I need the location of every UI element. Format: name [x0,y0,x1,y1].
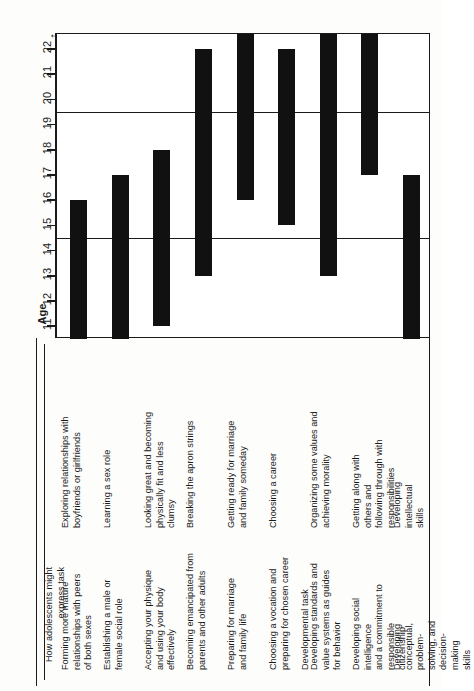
table-cell-task: Developing conceptual, problem-solving, … [392,620,473,670]
axis-tick-label: 19 [41,110,53,136]
bar [320,34,337,276]
axis-label-age: Age [36,303,48,324]
table-cell-expression: Looking great and becoming physically fi… [143,412,178,528]
table-cell-task: Establishing a male or female social rol… [102,579,125,670]
table-cell-task: Choosing a vocation and preparing for ch… [268,557,291,670]
table-cell-expression: Organizing some values and achieving mor… [309,411,332,528]
axis-tick-label: 14 [41,236,53,262]
table-cell-expression: Exploring relationships with boyfriends … [60,416,83,528]
age-axis: ↑ 111213141516171819202122 Age [44,25,56,345]
table-cell-expression: Developing intellectual skills [392,478,427,528]
axis-tick-label: 17 [41,160,53,186]
table-cell-expression: Choosing a career [268,453,280,528]
table-cell-task: Developing standards and value systems a… [309,563,344,670]
bar [70,200,87,339]
table-cell-expression: Getting along with others and following … [351,437,397,528]
axis-tick-label: 18 [41,135,53,161]
bar [153,150,170,326]
bar [237,34,254,200]
table-cell-expression: Learning a sex role [102,450,114,528]
table-cell-expression: Breaking the apron strings [185,421,197,528]
table-header-divider [44,344,45,680]
bar [278,49,295,225]
table-cell-task: Becoming emancipated from parents and ot… [185,553,208,670]
axis-tick-label: 16 [41,185,53,211]
axis-tick-label: 22 [41,34,53,60]
bar [361,34,378,175]
chart-plot-area [56,33,430,338]
axis-tick-label: 21 [41,59,53,85]
bar [403,175,420,339]
table-cell-task: Accepting your physique and using your b… [143,570,178,670]
table-cell-task: Preparing for marriage and family life [226,578,249,670]
task-table: Developmental taskHow adolescents might … [0,338,442,691]
axis-tick-label: 20 [41,85,53,111]
table-cell-expression: Getting ready for marriage and family so… [226,421,249,528]
axis-tick-label: 15 [41,211,53,237]
table-cell-task: Forming more mature relationships with p… [60,574,95,670]
bar [195,49,212,276]
axis-tick-label: 13 [41,261,53,287]
bar [112,175,129,339]
